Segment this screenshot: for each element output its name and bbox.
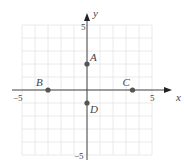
x-max-tick: 5 xyxy=(150,93,155,103)
y-axis-arrow-icon xyxy=(84,13,90,21)
y-axis xyxy=(84,13,90,160)
coordinate-plane: x y −5 5 5 −5 ABCD xyxy=(0,0,184,167)
x-axis-arrow-icon xyxy=(164,87,172,93)
point-b xyxy=(45,87,50,92)
point-d xyxy=(84,100,89,105)
point-label-d: D xyxy=(89,103,98,115)
point-label-a: A xyxy=(89,51,97,63)
x-min-tick: −5 xyxy=(13,93,23,103)
point-label-c: C xyxy=(123,76,131,88)
data-points: ABCD xyxy=(36,51,135,115)
y-axis-label: y xyxy=(92,7,98,19)
point-c xyxy=(130,87,135,92)
y-min-tick: −5 xyxy=(74,151,84,161)
x-axis-label: x xyxy=(175,91,181,103)
point-a xyxy=(84,61,89,66)
point-label-b: B xyxy=(36,76,43,88)
y-max-tick: 5 xyxy=(81,22,86,32)
